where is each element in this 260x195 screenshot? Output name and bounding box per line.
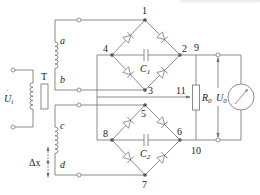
coil-label-a: a (60, 35, 65, 46)
output-voltage-label: U0 (216, 92, 227, 105)
wiper-arrow-icon (186, 96, 191, 99)
node-label-3: 3 (148, 85, 153, 96)
resistor-r0-label: R0 (201, 92, 212, 105)
lower-diode-bridge: C2 5 6 7 8 (103, 103, 182, 190)
primary-circuit: T Ui · (4, 68, 48, 129)
input-terminal-bottom (11, 125, 15, 129)
coil-label-d: d (60, 159, 66, 170)
node-label-10: 10 (191, 145, 201, 156)
terminal-b (77, 88, 81, 92)
secondary-coil-ab: a c b (55, 18, 81, 92)
displacement-label: Δx (29, 157, 40, 168)
secondary-coil-cd: c d Δx (29, 103, 81, 178)
output-terminal-top (216, 53, 220, 57)
output-terminal-bottom (216, 138, 220, 142)
node-label-6: 6 (177, 126, 182, 137)
coil-label-b-text: b (60, 74, 65, 85)
input-terminal-top (11, 68, 15, 72)
bridge-connections (81, 20, 191, 175)
output-section: 9 10 11 R0 U0 (176, 42, 254, 156)
coil-label-c: c (60, 120, 65, 131)
upper-diode-bridge: C1 1 2 3 4 (103, 5, 187, 96)
coil-cd-icon (55, 127, 58, 157)
terminal-d (77, 173, 81, 177)
node-label-9: 9 (194, 42, 199, 53)
coil-ab-icon (55, 42, 58, 72)
node-label-1: 1 (142, 5, 147, 16)
terminal-c (77, 103, 81, 107)
circuit-diagram: T Ui · a c b c d Δx (0, 0, 260, 195)
node-label-4: 4 (103, 43, 108, 54)
capacitor-c1-label: C1 (140, 63, 150, 76)
node-label-8: 8 (103, 128, 108, 139)
resistor-r0-icon (193, 85, 200, 110)
capacitor-c2-label: C2 (140, 148, 151, 161)
meter-gauge-icon (228, 84, 254, 110)
transformer-core-icon (41, 84, 48, 109)
primary-coil-icon (30, 83, 33, 114)
terminal-a (77, 18, 81, 22)
node-label-7: 7 (142, 179, 147, 190)
node-label-5: 5 (141, 108, 146, 119)
node-label-2: 2 (182, 43, 187, 54)
transformer-label: T (41, 71, 47, 82)
node-label-11: 11 (176, 85, 186, 96)
phasor-dot: · (6, 87, 8, 95)
displacement-arrow-icon (47, 146, 50, 178)
